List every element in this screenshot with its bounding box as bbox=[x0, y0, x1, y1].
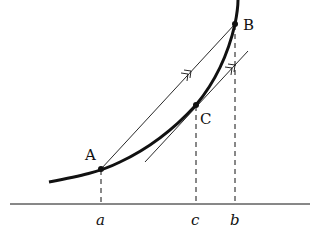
parallel-mark-tangent-icon bbox=[225, 64, 235, 75]
parallel-mark-chord-icon bbox=[181, 70, 191, 81]
label-axis-c: c bbox=[191, 211, 200, 229]
label-point-a: A bbox=[84, 146, 96, 164]
mean-value-theorem-diagram: A B C a c b bbox=[0, 0, 316, 235]
curve bbox=[49, 0, 238, 182]
label-point-c: C bbox=[200, 110, 211, 128]
chord-ab bbox=[101, 24, 235, 169]
label-point-b: B bbox=[243, 16, 254, 34]
point-c bbox=[193, 102, 199, 108]
point-a bbox=[98, 166, 104, 172]
diagram-svg: A B C a c b bbox=[0, 0, 316, 235]
label-axis-a: a bbox=[96, 211, 105, 229]
label-axis-b: b bbox=[230, 211, 240, 229]
point-b bbox=[232, 21, 238, 27]
